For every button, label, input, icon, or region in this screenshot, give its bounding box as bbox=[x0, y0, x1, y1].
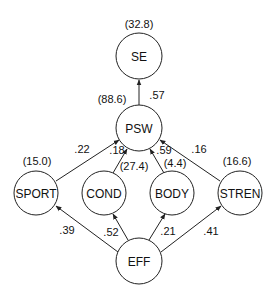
path-diagram: .57 .22 .18 .59 .16 .39 .52 .21 .41 (32.… bbox=[0, 0, 272, 297]
node-cond: COND bbox=[82, 171, 126, 215]
coef-eff-cond: .52 bbox=[103, 226, 118, 238]
coef-cond-psw: .18 bbox=[109, 144, 124, 156]
svg-text:EFF: EFF bbox=[128, 255, 151, 269]
coef-stren-psw: .16 bbox=[191, 143, 206, 155]
variance-cond: (27.4) bbox=[120, 160, 149, 172]
coef-eff-sport: .39 bbox=[59, 224, 74, 236]
coef-eff-stren: .41 bbox=[203, 225, 218, 237]
node-stren: STREN bbox=[218, 171, 262, 215]
node-psw: PSW bbox=[116, 105, 162, 151]
variance-sport: (15.0) bbox=[23, 155, 52, 167]
svg-text:STREN: STREN bbox=[220, 187, 261, 201]
svg-text:BODY: BODY bbox=[155, 187, 189, 201]
node-sport: SPORT bbox=[14, 171, 58, 215]
coef-psw-se: .57 bbox=[149, 89, 164, 101]
coef-body-psw: .59 bbox=[156, 144, 171, 156]
node-eff: EFF bbox=[116, 238, 162, 284]
variance-psw: (88.6) bbox=[98, 93, 127, 105]
svg-text:SPORT: SPORT bbox=[15, 187, 57, 201]
svg-text:COND: COND bbox=[86, 187, 122, 201]
coef-sport-psw: .22 bbox=[74, 143, 89, 155]
variance-se: (32.8) bbox=[125, 18, 154, 30]
svg-text:PSW: PSW bbox=[125, 122, 153, 136]
variance-body: (4.4) bbox=[164, 157, 187, 169]
coef-eff-body: .21 bbox=[160, 225, 175, 237]
node-se: SE bbox=[116, 33, 162, 79]
variance-stren: (16.6) bbox=[223, 155, 252, 167]
node-body: BODY bbox=[150, 171, 194, 215]
svg-text:SE: SE bbox=[131, 50, 147, 64]
